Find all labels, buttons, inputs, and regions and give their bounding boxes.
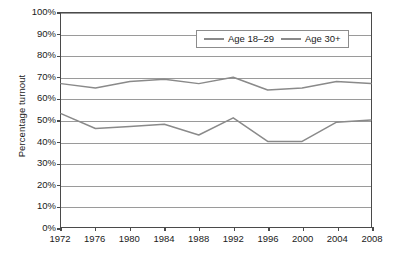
x-tick-mark [303,227,304,231]
x-tick-label: 2000 [292,234,313,244]
x-tick-label: 2004 [327,234,348,244]
y-tick-label: 20% [37,180,56,190]
x-tick-label: 1992 [223,234,244,244]
y-tick-label: 80% [37,50,56,60]
legend-swatch-icon [204,38,224,40]
x-tick-mark [130,227,131,231]
x-tick-mark [60,227,61,231]
legend-item-age-30-plus: Age 30+ [281,34,341,44]
x-tick-mark [164,227,165,231]
x-tick-label: 1980 [119,234,140,244]
legend-swatch-icon [281,38,301,40]
y-tick-label: 90% [37,29,56,39]
x-tick-label: 1996 [257,234,278,244]
y-tick-label: 70% [37,72,56,82]
x-tick-label: 1984 [153,234,174,244]
x-tick-label: 1976 [84,234,105,244]
legend-item-age-18-29: Age 18–29 [204,34,274,44]
y-tick-label: 50% [37,115,56,125]
x-tick-label: 1972 [49,234,70,244]
y-tick-label: 30% [37,158,56,168]
chart-legend: Age 18–29 Age 30+ [196,30,349,48]
x-tick-mark [268,227,269,231]
y-tick-label: 10% [37,202,56,212]
y-tick-label: 60% [37,94,56,104]
y-axis-tick-labels: 0%10%20%30%40%50%60%70%80%90%100% [22,12,56,228]
x-tick-mark [95,227,96,231]
y-tick-label: 40% [37,137,56,147]
y-tick-label: 100% [32,7,56,17]
x-tick-mark [372,227,373,231]
legend-label: Age 30+ [305,34,341,44]
y-tick-label: 0% [42,223,56,233]
x-tick-mark [338,227,339,231]
x-tick-label: 2008 [361,234,382,244]
series-line [61,77,371,90]
x-tick-mark [234,227,235,231]
x-axis-tick-labels: 1972197619801984198819921996200020042008 [60,234,372,248]
series-line [61,114,371,142]
legend-label: Age 18–29 [228,34,274,44]
chart-figure: Percentage turnout 0%10%20%30%40%50%60%7… [0,0,396,263]
x-tick-mark [199,227,200,231]
x-tick-label: 1988 [188,234,209,244]
